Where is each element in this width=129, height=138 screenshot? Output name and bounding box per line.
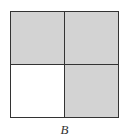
cell-bottom-right	[65, 65, 119, 118]
cell-top-right	[65, 12, 119, 65]
figure-label: B	[0, 122, 129, 138]
square-grid	[10, 11, 119, 118]
cell-bottom-left	[11, 65, 65, 118]
cell-top-left	[11, 12, 65, 65]
